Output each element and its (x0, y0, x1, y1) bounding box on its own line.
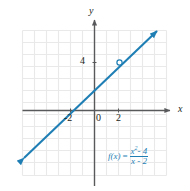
open-circle-hole (117, 60, 122, 65)
function-equation-annotation: f(x) = x2- 4 x - 2 (108, 147, 148, 167)
fraction-denominator: x - 2 (130, 157, 148, 166)
coordinate-plane-graph: y x -2 2 4 0 f(x) = x2- 4 x - 2 (0, 0, 190, 191)
graph-canvas (0, 0, 190, 191)
fraction-numerator: x2- 4 (130, 147, 149, 156)
x-axis-label: x (178, 104, 182, 114)
numerator-remainder: - 4 (138, 146, 148, 156)
origin-label: 0 (96, 113, 101, 123)
y-axis-label: y (89, 6, 93, 16)
equals-sign: = (123, 152, 128, 161)
function-name-label: f(x) (108, 152, 121, 161)
x-tick-label-2: 2 (116, 113, 121, 123)
y-tick-label-4: 4 (80, 56, 85, 66)
x-tick-label-minus-2: -2 (64, 113, 72, 123)
fraction: x2- 4 x - 2 (130, 147, 149, 167)
